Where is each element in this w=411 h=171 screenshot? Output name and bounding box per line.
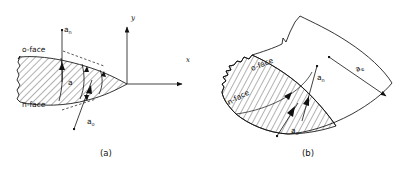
caption-a: (a) [100,148,112,158]
figure-container: o-face n-face an ao a y x (a) [0,0,411,171]
panel-a: o-face n-face an ao a y x (a) [17,14,190,158]
figure-canvas: o-face n-face an ao a y x (a) [0,0,411,171]
a-n-label-a: an [64,25,72,35]
x-axis-label: x [186,56,190,64]
n-face-label-a: n-face [22,100,46,109]
o-face-label-a: o-face [22,45,46,54]
y-axis-label: y [130,14,136,22]
panel-b: o-face n-face an ao ae (b) [222,16,392,158]
a-o-label-a: ao [87,117,95,127]
caption-b: (b) [302,148,314,158]
coordinate-axes-a [127,27,182,84]
a-center-label-a: a [68,78,73,87]
